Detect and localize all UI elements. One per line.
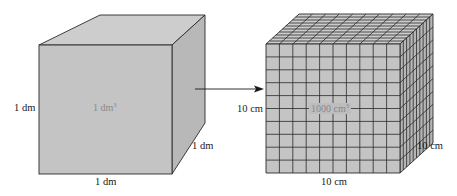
left-cube-height-label: 1 dm	[14, 103, 35, 114]
left-cube-width-label: 1 dm	[95, 177, 116, 188]
left-cube-depth-label: 1 dm	[192, 141, 213, 152]
right-volume-text: 1000 cm	[311, 103, 346, 114]
right-cube-volume-label: 1000 cm3	[309, 103, 351, 114]
right-volume-exponent: 3	[346, 102, 349, 109]
right-cube	[266, 14, 433, 173]
right-cube-depth-label: 10 cm	[417, 141, 443, 152]
right-cube-height-label: 10 cm	[237, 104, 263, 115]
left-volume-text: 1 dm	[93, 102, 113, 113]
diagram-graphics	[0, 0, 457, 196]
left-volume-exponent: 3	[113, 101, 116, 108]
left-cube	[39, 15, 205, 174]
right-cube-width-label: 10 cm	[321, 177, 347, 188]
volume-conversion-diagram: 1 dm 1 dm3 1 dm 1 dm 10 cm 1000 cm3 10 c…	[0, 0, 457, 196]
left-cube-volume-label: 1 dm3	[93, 102, 117, 113]
